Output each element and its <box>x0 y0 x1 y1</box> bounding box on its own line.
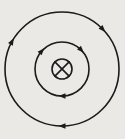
field-lines-svg <box>0 0 125 139</box>
magnetic-field-diagram <box>0 0 125 139</box>
